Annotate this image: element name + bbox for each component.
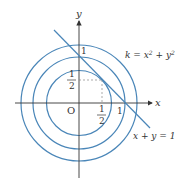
x-tick-half: 1 2 [97,104,106,126]
x-tick-1: 1 [117,106,123,116]
svg-text:1: 1 [69,69,75,79]
y-axis-label: y [75,8,82,19]
circle-family-label: k = x2 + y2 [125,49,175,61]
x-axis-label: x [155,97,161,108]
svg-text:2: 2 [99,116,105,126]
origin-label: O [67,105,75,116]
svg-text:2: 2 [69,81,75,91]
y-tick-1: 1 [81,46,87,56]
diagram-canvas: y x O 1 1 1 2 1 2 k = x2 + y2 x + y = 1 [0,0,182,188]
svg-text:1: 1 [99,104,105,114]
svg-text:k = x2 + y2: k = x2 + y2 [125,49,175,61]
y-tick-half: 1 2 [67,69,76,91]
line-label: x + y = 1 [133,131,175,141]
